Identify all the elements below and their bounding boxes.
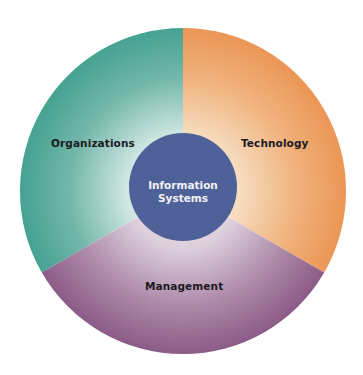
center-label: Information Systems	[128, 179, 238, 205]
information-systems-diagram: Organizations Technology Management Info…	[0, 0, 363, 375]
label-technology: Technology	[241, 137, 308, 149]
center-label-line2: Systems	[128, 192, 238, 205]
label-management: Management	[145, 280, 223, 292]
label-organizations: Organizations	[51, 137, 135, 149]
center-label-line1: Information	[128, 179, 238, 192]
